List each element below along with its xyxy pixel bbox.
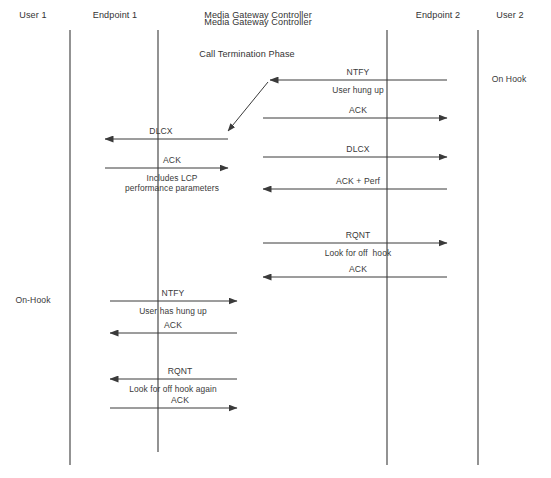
column-header-user1: User 1 [19, 10, 46, 20]
msg-rqnt-off-hook-again-sublabel: Look for off hook again [129, 384, 216, 394]
diagram-canvas [0, 0, 551, 478]
diagram-phase: Call Termination Phase [199, 49, 295, 59]
msg-diagonal [228, 82, 268, 131]
msg-ack-rqnt-right-label: ACK [349, 264, 367, 274]
msg-ack-lcp-label: ACK [163, 155, 181, 165]
msg-ntfy-user-hung-up-label: NTFY [347, 67, 370, 77]
lifelines-group [70, 30, 478, 465]
msg-ack-to-endpoint2-1-label: ACK [349, 105, 367, 115]
diagram-mgc-title: Media Gateway Controller [204, 17, 312, 27]
state-label-on-hook-left: On-Hook [15, 295, 50, 305]
msg-ntfy-user-hung-up-sublabel: User hung up [332, 85, 383, 95]
msg-rqnt-off-hook-label: RQNT [346, 230, 371, 240]
msg-dlcx-to-endpoint1-label: DLCX [149, 126, 172, 136]
msg-ntfy-user-has-hung-up-label: NTFY [162, 288, 185, 298]
msg-ack-perf-label: ACK + Perf [336, 176, 380, 186]
msg-ack-ntfy-left-label: ACK [164, 320, 182, 330]
column-header-user2: User 2 [496, 10, 523, 20]
msg-rqnt-off-hook-sublabel: Look for off hook [325, 248, 391, 258]
msg-ack-rqnt-left-label: ACK [171, 395, 189, 405]
msg-rqnt-off-hook-again-label: RQNT [168, 366, 193, 376]
sequence-diagram: User 1Endpoint 1Media Gateway Controller… [0, 0, 551, 478]
msg-ntfy-user-has-hung-up-sublabel: User has hung up [139, 306, 207, 316]
state-label-on-hook-right: On Hook [492, 74, 527, 84]
column-header-endpoint2: Endpoint 2 [416, 10, 460, 20]
msg-dlcx-to-endpoint2-label: DLCX [346, 144, 369, 154]
msg-ack-lcp-sublabel: Includes LCPperformance parameters [125, 173, 219, 193]
column-header-endpoint1: Endpoint 1 [93, 10, 137, 20]
